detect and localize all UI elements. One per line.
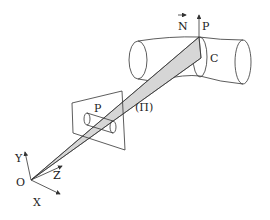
- cylinder-right-end: [235, 40, 251, 84]
- projection-diagram: N P C (Π) P O X Y Z: [0, 0, 270, 220]
- beam-edge-lower: [31, 58, 201, 180]
- label-plane: (Π): [135, 101, 153, 114]
- label-curve: C: [210, 52, 218, 65]
- small-cylinder-right-end: [110, 121, 116, 133]
- label-axis-y: Y: [14, 152, 23, 165]
- label-axis-z: Z: [53, 169, 61, 182]
- diagram-canvas: N P C (Π) P O X Y Z: [0, 0, 270, 220]
- beam-edge-upper: [31, 37, 199, 180]
- axis-y-arrow: [25, 152, 31, 180]
- label-point-small: P: [94, 102, 102, 115]
- label-axis-x: X: [33, 196, 41, 209]
- cylinder-left-end: [129, 41, 147, 79]
- label-origin: O: [16, 176, 25, 189]
- cylinder-top-edge-right: [199, 37, 243, 40]
- label-normal: N: [178, 20, 188, 33]
- axis-x-arrow: [31, 180, 60, 194]
- cylinder-top-edge-left: [138, 37, 199, 41]
- label-point-large: P: [202, 20, 210, 33]
- small-cylinder-left-end: [84, 113, 90, 125]
- projection-beam: [31, 37, 201, 180]
